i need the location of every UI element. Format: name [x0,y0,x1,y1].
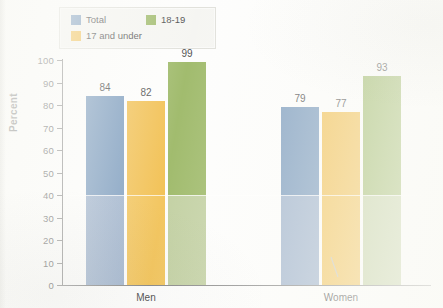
legend-item-18-19: 18-19 [146,14,185,25]
bar-lower-segment [168,195,206,285]
legend-label-18-19: 18-19 [161,14,185,25]
bar-value-label: 79 [294,93,305,104]
bar-chart: Total 18-19 17 and under Percent 1009080… [0,0,443,308]
y-tick-label: 70 [43,122,54,133]
plot-area: 1009080706050403020100 848299Men797793Wo… [62,60,430,285]
legend-label-total: Total [86,14,106,25]
y-axis-line [62,59,63,286]
y-tick-label: 0 [49,280,54,291]
x-axis-category-label: Women [324,292,358,303]
y-tick-label: 100 [38,55,54,66]
bar-lower-segment [322,195,360,285]
bar-women-17-and-under: 77 [322,112,360,285]
x-axis-category-label: Men [136,292,155,303]
bar-lower-segment [281,195,319,285]
legend-swatch-total-icon [71,15,81,25]
legend-label-17-and-under: 17 and under [86,30,142,41]
y-tick-label: 90 [43,77,54,88]
bar-value-label: 77 [335,98,346,109]
y-tick-label: 50 [43,167,54,178]
legend-swatch-17-and-under-icon [71,31,81,41]
y-axis-label: Percent [8,93,19,132]
bar-value-label: 93 [376,62,387,73]
x-axis-line [62,285,431,286]
y-tick-label: 60 [43,145,54,156]
y-tick-label: 10 [43,257,54,268]
bar-men-total: 84 [86,96,124,285]
bar-value-label: 99 [181,48,192,59]
bar-group-women: 797793Women [281,60,402,285]
bar-lower-segment [86,195,124,285]
bar-men-17-and-under: 82 [127,101,165,286]
bar-men-18-19: 99 [168,62,206,285]
y-tick-label: 30 [43,212,54,223]
scan-edge-shadow [0,0,6,308]
bar-lower-segment [363,195,401,285]
legend-item-17-and-under: 17 and under [71,30,142,41]
chart-legend: Total 18-19 17 and under [59,7,216,49]
bar-value-label: 82 [140,87,151,98]
bar-group-men: 848299Men [86,60,207,285]
bar-value-label: 84 [99,82,110,93]
bar-women-18-19: 93 [363,76,401,285]
legend-swatch-18-19-icon [146,15,156,25]
bar-women-total: 79 [281,107,319,285]
y-tick-label: 20 [43,235,54,246]
y-tick-label: 40 [43,190,54,201]
y-tick-label: 80 [43,100,54,111]
legend-item-total: Total [71,14,106,25]
bar-lower-segment [127,195,165,285]
